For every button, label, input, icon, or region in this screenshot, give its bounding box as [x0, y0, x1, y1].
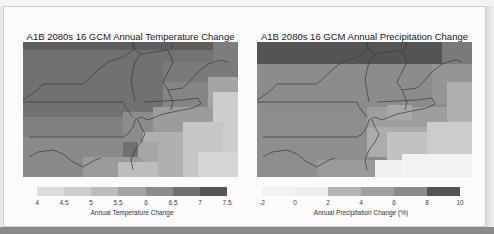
- colorbar-tick: 7: [198, 199, 202, 206]
- temperature-map-title: A1B 2080s 16 GCM Annual Temperature Chan…: [23, 31, 238, 42]
- colorbar-segment: [173, 187, 200, 196]
- colorbar-segment: [361, 187, 394, 196]
- precipitation-change-map: [257, 42, 472, 177]
- colorbar-segment: [64, 187, 91, 196]
- colorbar-tick: 6.5: [168, 199, 177, 206]
- temperature-colorbar: [37, 187, 227, 196]
- colorbar-segment: [91, 187, 118, 196]
- page-shadow: [486, 6, 494, 227]
- colorbar-tick: -2: [259, 199, 265, 206]
- colorbar-segment: [37, 187, 64, 196]
- colorbar-segment: [146, 187, 173, 196]
- colorbar-tick: 4.5: [59, 199, 68, 206]
- colorbar-tick: 6: [144, 199, 148, 206]
- precipitation-colorbar-label: Annual Precipitation Change (%): [314, 209, 408, 216]
- colorbar-segment: [262, 187, 295, 196]
- colorbar-tick: 8: [425, 199, 429, 206]
- temperature-colorbar-label: Annual Temperature Change: [91, 209, 174, 216]
- colorbar-segment: [118, 187, 145, 196]
- colorbar-tick: 7.5: [222, 199, 231, 206]
- colorbar-tick: 4: [35, 199, 39, 206]
- precipitation-map-title: A1B 2080s 16 GCM Annual Precipitation Ch…: [257, 31, 472, 42]
- colorbar-tick: 2: [326, 199, 330, 206]
- precipitation-colorbar: [262, 187, 460, 196]
- colorbar-segment: [394, 187, 427, 196]
- colorbar-segment: [295, 187, 328, 196]
- colorbar-tick: 10: [456, 199, 463, 206]
- colorbar-tick: 0: [293, 199, 297, 206]
- temperature-map-graphic: [23, 42, 238, 177]
- colorbar-segment: [328, 187, 361, 196]
- colorbar-tick: 6: [392, 199, 396, 206]
- colorbar-tick: 5: [89, 199, 93, 206]
- colorbar-tick: 4: [359, 199, 363, 206]
- colorbar-segment: [427, 187, 460, 196]
- temperature-change-map: [23, 42, 238, 177]
- precipitation-map-graphic: [257, 42, 472, 177]
- colorbar-segment: [200, 187, 227, 196]
- colorbar-tick: 5.5: [113, 199, 122, 206]
- bottom-band: [0, 227, 494, 234]
